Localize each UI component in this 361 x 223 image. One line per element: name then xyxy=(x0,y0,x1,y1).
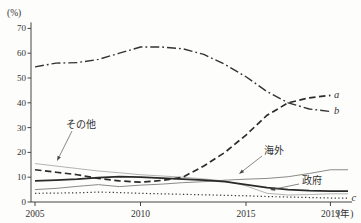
y-tick-label: 0 xyxy=(22,197,27,207)
y-axis-unit-label: (%) xyxy=(7,8,21,19)
line-chart-svg: (%) (年) 0102030405060702005201020152019c… xyxy=(0,0,361,223)
annotation-leader-kaigai xyxy=(243,156,262,171)
annotation-label-seifu: 政府 xyxy=(302,174,322,186)
series-end-label-c: c xyxy=(352,192,357,203)
y-tick-label: 30 xyxy=(17,123,27,133)
plot-area: 0102030405060702005201020152019cbaその他海外政… xyxy=(17,22,357,218)
annotation-leader-seifu xyxy=(275,184,299,189)
x-tick-label: 2005 xyxy=(26,209,45,219)
annotation-leader-sonota xyxy=(59,131,72,157)
annotation-label-sonota: その他 xyxy=(66,118,96,130)
y-tick-label: 40 xyxy=(17,98,27,108)
y-tick-label: 10 xyxy=(17,172,27,182)
series-line-line-b xyxy=(35,47,330,111)
x-tick-label: 2010 xyxy=(131,209,150,219)
series-end-label-b: b xyxy=(334,105,339,116)
y-tick-label: 50 xyxy=(17,73,27,83)
annotation-label-kaigai: 海外 xyxy=(264,144,284,156)
y-tick-label: 60 xyxy=(17,48,27,58)
y-tick-label: 70 xyxy=(17,23,27,33)
y-tick-label: 20 xyxy=(17,147,27,157)
x-tick-label: 2019 xyxy=(321,209,340,219)
x-tick-label: 2015 xyxy=(237,209,256,219)
annotation-arrowhead-sonota xyxy=(57,156,61,161)
annotation-arrowhead-kaigai xyxy=(239,170,244,174)
chart-page: (%) (年) 0102030405060702005201020152019c… xyxy=(0,0,361,223)
series-end-label-a: a xyxy=(334,89,339,100)
